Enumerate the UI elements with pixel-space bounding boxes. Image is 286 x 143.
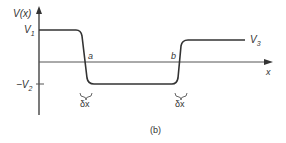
x-axis-label: x [265, 67, 271, 77]
y-axis-label: V(x) [13, 8, 31, 19]
point-a-label: a [88, 51, 93, 61]
v1-label: V1 [24, 24, 35, 37]
figure-caption: (b) [150, 125, 161, 135]
diagram-canvas: V(x) V1 −V2 V3 x a b δx δx (b) [0, 0, 286, 143]
v2-label: −V2 [16, 79, 33, 92]
v3-label: V3 [250, 34, 261, 47]
left-delta-x-label: δx [80, 99, 90, 109]
right-delta-x-label: δx [175, 99, 185, 109]
x-axis [39, 59, 273, 65]
y-axis-arrow-icon [36, 6, 42, 14]
y-axis [36, 6, 42, 115]
x-axis-arrow-icon [264, 59, 273, 65]
potential-curve [39, 30, 245, 84]
potential-diagram: V(x) V1 −V2 V3 x a b δx δx (b) [0, 0, 286, 143]
point-b-label: b [171, 51, 176, 61]
